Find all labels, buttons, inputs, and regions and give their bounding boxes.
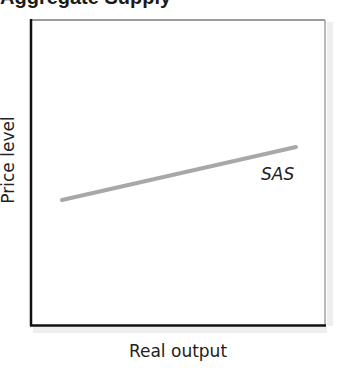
x-axis-label: Real output — [31, 341, 325, 361]
shadow-bottom — [33, 327, 327, 333]
chart-plot-area — [0, 0, 343, 380]
sas-curve-label: SAS — [261, 164, 294, 184]
y-axis-label: Price level — [0, 100, 18, 220]
shadow-right — [327, 22, 333, 326]
